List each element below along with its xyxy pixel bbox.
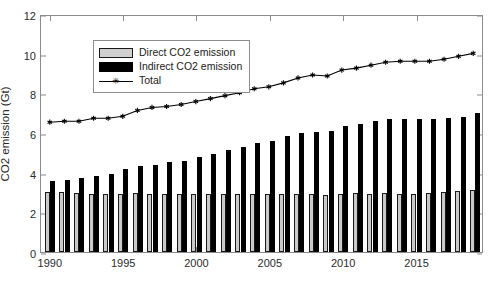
x-tick-label: 2000	[184, 258, 208, 269]
total-marker-1999	[179, 102, 184, 107]
bar-indirect-2005	[270, 141, 275, 252]
figure: CO2 emission (Gt) 024681012 199019952000…	[0, 0, 499, 283]
total-marker-2007	[296, 75, 301, 80]
x-tick-mark-top	[123, 16, 124, 21]
legend-item-direct: Direct CO2 emission	[99, 46, 242, 59]
bar-indirect-2006	[285, 136, 290, 252]
line-marker-total-icon	[99, 76, 133, 86]
x-tick-label: 1995	[111, 258, 135, 269]
bar-indirect-1997	[153, 165, 158, 252]
total-marker-2011	[354, 66, 359, 71]
total-marker-1997	[150, 105, 155, 110]
total-marker-2008	[310, 72, 315, 77]
y-tick-mark-right	[477, 55, 482, 56]
x-tick-mark-top	[343, 16, 344, 21]
bar-indirect-2000	[197, 157, 202, 252]
y-tick-mark	[41, 174, 46, 175]
x-tick-label: 2010	[331, 258, 355, 269]
bar-indirect-2010	[343, 126, 348, 252]
total-marker-2000	[194, 99, 199, 104]
total-marker-2006	[281, 80, 286, 85]
y-tick-label: 6	[30, 130, 36, 141]
legend-item-indirect: Indirect CO2 emission	[99, 60, 242, 73]
bar-indirect-1998	[167, 162, 172, 252]
total-marker-2010	[340, 68, 345, 73]
bar-indirect-2007	[299, 133, 304, 252]
swatch-direct-icon	[99, 48, 133, 58]
bar-indirect-2019	[475, 113, 480, 252]
y-tick-mark	[41, 95, 46, 96]
total-marker-1991	[62, 119, 67, 124]
legend: Direct CO2 emission Indirect CO2 emissio…	[93, 40, 250, 93]
x-tick-mark-top	[196, 16, 197, 21]
x-tick-label: 2015	[404, 258, 428, 269]
y-tick-mark-right	[477, 254, 482, 255]
bar-indirect-2013	[387, 119, 392, 252]
legend-label-indirect: Indirect CO2 emission	[139, 61, 242, 72]
bar-indirect-1999	[182, 161, 187, 252]
bar-indirect-2011	[358, 124, 363, 252]
total-marker-2002	[223, 93, 228, 98]
bar-indirect-2009	[329, 131, 334, 252]
bar-indirect-2018	[461, 117, 466, 252]
y-tick-label: 10	[24, 50, 36, 61]
bar-indirect-2008	[314, 132, 319, 252]
bar-indirect-2017	[446, 118, 451, 252]
bar-indirect-2002	[226, 150, 231, 252]
y-axis-label: CO2 emission (Gt)	[0, 86, 11, 181]
total-marker-1998	[164, 104, 169, 109]
total-marker-1990	[48, 120, 53, 125]
total-marker-2014	[398, 59, 403, 64]
y-tick-label: 0	[30, 249, 36, 260]
total-marker-2009	[325, 73, 330, 78]
x-tick-label: 1990	[38, 258, 62, 269]
y-tick-mark	[41, 55, 46, 56]
y-tick-mark	[41, 16, 46, 17]
y-tick-mark	[41, 254, 46, 255]
y-tick-label: 8	[30, 90, 36, 101]
bar-indirect-2012	[373, 121, 378, 252]
bar-indirect-2015	[417, 119, 422, 252]
x-tick-mark-top	[50, 16, 51, 21]
bar-indirect-2001	[211, 154, 216, 252]
x-tick-mark-top	[270, 16, 271, 21]
total-marker-2013	[383, 60, 388, 65]
bar-indirect-1992	[79, 178, 84, 252]
plot-inner: 024681012 199019952000200520102015 Direc…	[41, 16, 482, 252]
legend-item-total: Total	[99, 74, 242, 87]
y-tick-label: 12	[24, 11, 36, 22]
x-tick-label: 2005	[258, 258, 282, 269]
bar-indirect-2003	[241, 147, 246, 252]
total-marker-2005	[267, 84, 272, 89]
total-marker-2012	[369, 63, 374, 68]
total-marker-2019	[471, 51, 476, 56]
bar-indirect-2014	[402, 119, 407, 252]
x-tick-mark-top	[417, 16, 418, 21]
plot-area: 024681012 199019952000200520102015 Direc…	[40, 15, 483, 253]
bar-indirect-2004	[255, 143, 260, 252]
bar-indirect-1994	[109, 174, 114, 252]
bar-indirect-1993	[94, 176, 99, 252]
total-marker-1995	[121, 114, 126, 119]
bar-indirect-1990	[50, 181, 55, 252]
bar-indirect-2016	[431, 119, 436, 252]
total-marker-1996	[135, 108, 140, 113]
total-marker-1994	[106, 116, 111, 121]
total-marker-2001	[208, 96, 213, 101]
total-marker-2017	[442, 57, 447, 62]
bar-indirect-1991	[65, 180, 70, 252]
y-tick-label: 2	[30, 209, 36, 220]
total-marker-2018	[456, 54, 461, 59]
legend-label-direct: Direct CO2 emission	[139, 47, 235, 58]
y-tick-mark	[41, 135, 46, 136]
y-tick-mark-right	[477, 16, 482, 17]
bar-indirect-1996	[138, 166, 143, 252]
legend-label-total: Total	[139, 75, 161, 86]
y-tick-mark-right	[477, 95, 482, 96]
total-marker-1993	[91, 116, 96, 121]
bar-indirect-1995	[123, 169, 128, 252]
y-tick-label: 4	[30, 169, 36, 180]
swatch-indirect-icon	[99, 62, 133, 72]
total-marker-2004	[252, 86, 257, 91]
total-marker-2015	[413, 59, 418, 64]
